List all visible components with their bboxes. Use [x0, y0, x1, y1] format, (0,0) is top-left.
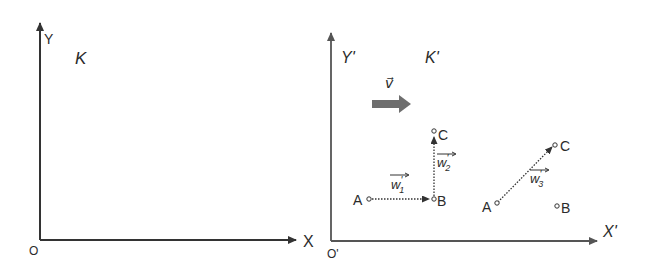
- kp-origin-label: O': [327, 247, 339, 261]
- point-a-1: [367, 197, 371, 201]
- label-a-2: A: [482, 199, 492, 215]
- path-via-b: A B C w'1 w'2: [353, 127, 456, 209]
- kp-y-axis-label: Y': [341, 49, 356, 66]
- label-c-1: C: [438, 127, 448, 143]
- kp-x-axis-label: X': [602, 223, 618, 240]
- point-c-1: [432, 129, 436, 133]
- point-b-1: [432, 197, 436, 201]
- svg-text:w'3: w'3: [530, 169, 543, 189]
- frame-k: Y K X O: [29, 23, 314, 258]
- label-b-2: B: [561, 200, 570, 216]
- reference-frames-diagram: Y K X O Y' K' X' O' v⃗ A B C: [0, 0, 645, 276]
- label-b-1: B: [437, 193, 446, 209]
- kp-frame-name: K': [425, 49, 440, 66]
- direct-path: A B C w'3: [482, 138, 570, 216]
- point-b-2: [555, 204, 559, 208]
- frame-k-prime: Y' K' X' O' v⃗ A B C w'1: [327, 33, 618, 261]
- label-c-2: C: [560, 138, 570, 154]
- point-c-2: [553, 143, 557, 147]
- vector-w3: [498, 147, 552, 202]
- svg-text:w'1: w'1: [391, 175, 404, 195]
- vector-label-w3: w'3: [530, 168, 549, 189]
- label-a-1: A: [353, 192, 363, 208]
- point-a-2: [495, 201, 499, 205]
- k-y-axis-label: Y: [44, 31, 54, 47]
- k-x-axis-label: X: [303, 233, 314, 250]
- velocity-label: v⃗: [385, 75, 394, 91]
- velocity-arrow-icon: [372, 95, 411, 113]
- svg-text:w'2: w'2: [437, 153, 450, 173]
- k-origin-label: O: [29, 244, 38, 258]
- vector-label-w2: w'2: [437, 152, 456, 173]
- k-frame-name: K: [75, 49, 87, 68]
- vector-label-w1: w'1: [390, 173, 409, 195]
